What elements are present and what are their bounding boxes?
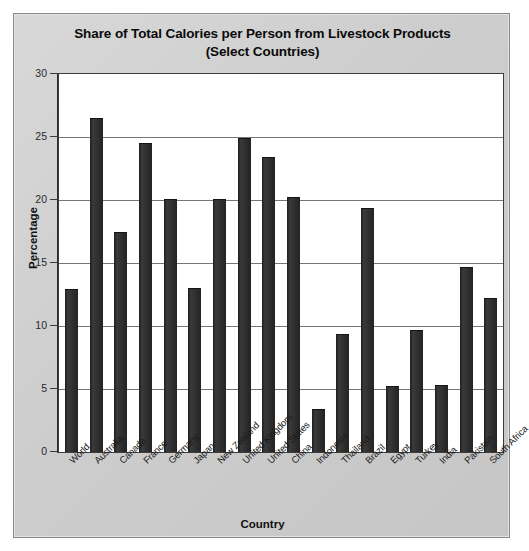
gridline-25 bbox=[59, 137, 503, 138]
y-axis-tick-label: 15 bbox=[15, 257, 47, 267]
bar bbox=[361, 208, 374, 452]
y-tick-25 bbox=[50, 136, 58, 137]
y-tick-5 bbox=[50, 388, 58, 389]
bar bbox=[164, 199, 177, 452]
bar bbox=[262, 157, 275, 452]
y-axis-tick-label-wrap: 20 bbox=[14, 194, 47, 204]
bar bbox=[312, 409, 325, 452]
plot-area bbox=[58, 73, 504, 453]
y-tick-30 bbox=[50, 73, 58, 74]
chart-title: Share of Total Calories per Person from … bbox=[14, 25, 511, 61]
bar bbox=[386, 386, 399, 452]
y-axis-tick-label-wrap: 30 bbox=[14, 68, 47, 78]
y-axis-tick-label: 25 bbox=[15, 131, 47, 141]
gridline-20 bbox=[59, 200, 503, 201]
y-tick-10 bbox=[50, 325, 58, 326]
y-tick-20 bbox=[50, 199, 58, 200]
bar bbox=[188, 288, 201, 452]
bar bbox=[410, 330, 423, 452]
chart-title-line1: Share of Total Calories per Person from … bbox=[74, 26, 451, 41]
y-axis-tick-label-wrap: 15 bbox=[14, 257, 47, 267]
bar bbox=[213, 199, 226, 452]
bar bbox=[90, 118, 103, 452]
chart-figure: Share of Total Calories per Person from … bbox=[13, 13, 510, 538]
bar bbox=[139, 143, 152, 452]
y-axis-tick-label-wrap: 10 bbox=[14, 320, 47, 330]
bar bbox=[484, 298, 497, 452]
x-axis-title: Country bbox=[14, 518, 511, 530]
bar bbox=[238, 138, 251, 452]
bar bbox=[114, 232, 127, 453]
chart-title-line2: (Select Countries) bbox=[14, 43, 511, 61]
y-axis-tick-label-wrap: 5 bbox=[14, 383, 47, 393]
y-axis-tick-label: 20 bbox=[15, 194, 47, 204]
y-axis-tick-label: 5 bbox=[15, 383, 47, 393]
y-tick-0 bbox=[50, 451, 58, 452]
y-axis-tick-label-wrap: 25 bbox=[14, 131, 47, 141]
y-tick-15 bbox=[50, 262, 58, 263]
y-axis-tick-label-wrap: 0 bbox=[14, 446, 47, 456]
y-axis-tick-label: 0 bbox=[15, 446, 47, 456]
y-axis-tick-label: 10 bbox=[15, 320, 47, 330]
bar bbox=[65, 289, 78, 452]
y-axis-tick-label: 30 bbox=[15, 68, 47, 78]
bar bbox=[460, 267, 473, 452]
